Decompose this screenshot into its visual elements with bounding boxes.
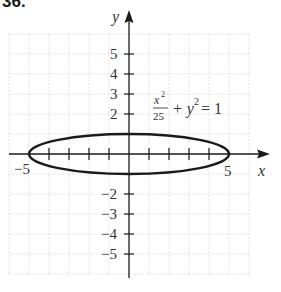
y-tick-label-neg2: −2 — [101, 186, 117, 202]
eq-num-exp: 2 — [161, 90, 165, 99]
x-axis-label: x — [257, 162, 265, 179]
eq-num: x — [153, 93, 160, 107]
x-tick-label-5: 5 — [224, 163, 232, 179]
y-tick-label-5: 5 — [110, 46, 118, 62]
y-tick-label-neg4: −4 — [101, 226, 117, 242]
ellipse-graph: 5 4 3 2 −2 −3 −4 −5 −5 5 x y x 2 25 + y … — [0, 0, 281, 292]
y-axis-label: y — [110, 8, 120, 26]
x-tick-label-neg5: −5 — [14, 161, 30, 177]
y-tick-label-neg5: −5 — [101, 246, 117, 262]
y-tick-label-3: 3 — [110, 86, 118, 102]
eq-den: 25 — [153, 110, 165, 122]
eq-rest-exp: 2 — [194, 96, 199, 107]
eq-rhs: = 1 — [201, 100, 222, 117]
y-tick-label-2: 2 — [110, 106, 118, 122]
y-tick-label-neg3: −3 — [101, 206, 117, 222]
equation-label: x 2 25 + y 2 = 1 — [153, 90, 222, 122]
eq-rest: + y — [172, 100, 195, 118]
y-tick-label-4: 4 — [110, 66, 118, 82]
